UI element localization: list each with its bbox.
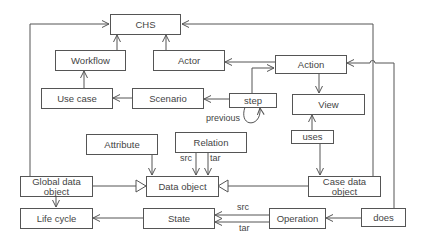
node-label: does <box>373 213 394 223</box>
node-attribute: Attribute <box>86 134 158 155</box>
node-view: View <box>292 94 365 115</box>
node-relation: Relation <box>175 132 247 153</box>
edge-label-previous: previous <box>206 113 240 123</box>
node-case-data-object: Case data object <box>308 176 381 197</box>
node-label: Workflow <box>71 56 110 66</box>
node-label: Operation <box>277 214 319 224</box>
node-global-data-object: Global data object <box>20 176 93 197</box>
node-uses: uses <box>291 130 334 144</box>
node-label: uses <box>302 132 322 142</box>
node-life-cycle: Life cycle <box>20 208 93 229</box>
node-label: Data object <box>158 182 206 192</box>
node-chs: CHS <box>110 14 181 35</box>
edge-label-relation-tar: tar <box>210 153 221 163</box>
node-label: Actor <box>178 56 200 66</box>
node-actor: Actor <box>153 50 225 71</box>
node-label: Scenario <box>149 94 187 104</box>
node-label: Global data object <box>21 177 92 197</box>
node-scenario: Scenario <box>132 88 204 109</box>
node-label: CHS <box>135 20 155 30</box>
node-label: Action <box>298 60 324 70</box>
node-label: View <box>318 100 338 110</box>
node-data-object: Data object <box>146 176 219 197</box>
node-label: Use case <box>57 94 97 104</box>
node-label: Case data object <box>309 177 380 197</box>
node-does: does <box>361 208 406 227</box>
node-state: State <box>143 208 215 229</box>
node-operation: Operation <box>269 208 326 229</box>
node-use-case: Use case <box>41 88 113 109</box>
node-label: Relation <box>194 138 229 148</box>
edge-label-operation-src: src <box>237 202 249 212</box>
node-label: Attribute <box>104 140 139 150</box>
node-label: State <box>168 214 190 224</box>
node-action: Action <box>275 55 347 74</box>
edge-label-relation-src: src <box>180 153 192 163</box>
node-workflow: Workflow <box>55 50 126 71</box>
node-label: Life cycle <box>37 214 77 224</box>
node-step: step <box>229 93 277 108</box>
node-label: step <box>244 96 262 106</box>
edge-label-operation-tar: tar <box>239 223 250 233</box>
